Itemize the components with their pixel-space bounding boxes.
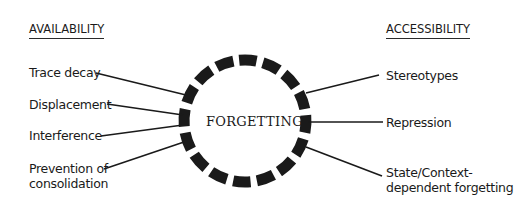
label-repression: Repression [386, 115, 451, 130]
accessibility-heading: ACCESSIBILITY [386, 22, 470, 39]
availability-heading: AVAILABILITY [29, 22, 104, 39]
label-prevention-line1: Prevention of [29, 161, 108, 176]
connector-state-context [306, 147, 382, 176]
label-prevention-line2: consolidation [29, 176, 108, 191]
connector-prevention-of-consolidation [104, 142, 184, 169]
label-stereotypes: Stereotypes [386, 68, 458, 83]
label-state-context-line2: dependent forgetting [386, 180, 513, 195]
label-state-context-line1: State/Context- [386, 165, 473, 180]
connector-displacement [107, 104, 183, 115]
connector-stereotypes [306, 75, 379, 93]
connector-interference [101, 125, 183, 136]
forgetting-diagram: AVAILABILITY ACCESSIBILITY FORGETTING Tr… [0, 0, 525, 215]
label-displacement: Displacement [29, 97, 111, 112]
label-trace-decay: Trace decay [29, 65, 100, 80]
label-interference: Interference [29, 128, 102, 143]
center-label: FORGETTING [206, 114, 303, 129]
connector-trace-decay [96, 73, 186, 95]
